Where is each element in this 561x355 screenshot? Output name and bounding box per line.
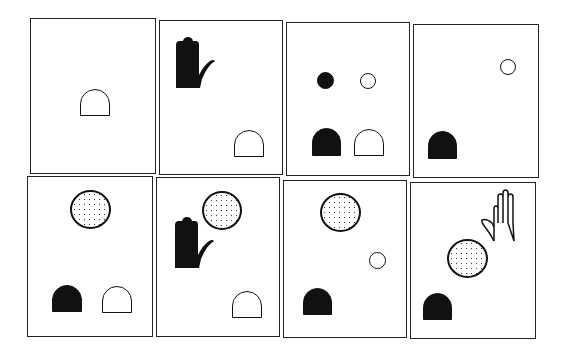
black-hand-icon: [173, 215, 215, 269]
black-arch-icon: [52, 285, 82, 312]
panel-6: [156, 177, 280, 337]
small-black-circle-icon: [317, 72, 334, 89]
small-open-circle-icon: [369, 252, 386, 269]
open-arch-icon: [80, 89, 110, 116]
panel-2: [159, 20, 283, 175]
panel-4: [413, 24, 539, 178]
black-hand-icon: [174, 35, 216, 89]
large-stippled-circle-icon: [70, 190, 111, 229]
open-arch-icon: [232, 291, 262, 318]
black-arch-icon: [303, 288, 332, 315]
large-stippled-circle-icon: [320, 193, 361, 232]
panel-8: [410, 182, 536, 339]
black-arch-icon: [428, 131, 457, 159]
open-arch-icon: [234, 130, 264, 157]
small-open-circle-icon: [360, 73, 376, 89]
open-arch-icon: [354, 129, 384, 156]
large-stippled-circle-icon: [447, 239, 488, 278]
panel-7: [283, 180, 407, 338]
panel-1: [30, 18, 156, 174]
open-arch-icon: [102, 286, 132, 313]
black-arch-icon: [312, 128, 341, 156]
panel-5: [27, 176, 153, 337]
small-open-circle-icon: [500, 59, 516, 75]
outline-hand-icon: [480, 189, 522, 245]
panel-3: [286, 22, 410, 176]
black-arch-icon: [423, 293, 452, 320]
